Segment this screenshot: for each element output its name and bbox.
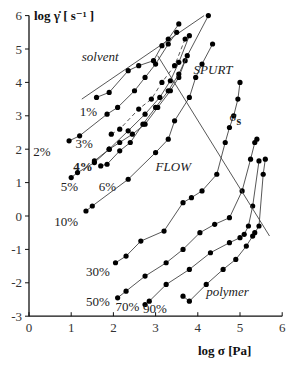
data-point: [94, 95, 99, 100]
data-point: [187, 299, 192, 304]
data-point: [199, 188, 204, 193]
data-point: [123, 253, 128, 258]
data-point: [176, 21, 181, 26]
data-point: [66, 138, 71, 143]
region-label: σs: [229, 109, 241, 128]
y-tick-label: 3: [16, 108, 23, 123]
data-point: [104, 112, 109, 117]
series-label: 3%: [75, 136, 93, 151]
y-tick-label: 4: [16, 75, 23, 90]
data-point: [233, 257, 238, 262]
x-tick-label: 6: [279, 320, 286, 335]
data-point: [210, 41, 215, 46]
series-label: 2%: [33, 144, 51, 159]
data-point: [227, 215, 232, 220]
data-point: [126, 128, 131, 133]
y-tick-label: 1: [16, 175, 23, 190]
series-label: 5%: [61, 179, 79, 194]
data-point: [104, 162, 109, 167]
x-tick-label: 2: [110, 320, 117, 335]
x-tick-label: 0: [26, 320, 33, 335]
data-point: [221, 267, 226, 272]
data-point: [128, 140, 133, 145]
data-point: [246, 223, 251, 228]
y-tick-label: 6: [16, 8, 23, 23]
y-tick-label: -1: [11, 242, 22, 257]
series-line: [183, 159, 265, 301]
region-label: polymer: [205, 284, 250, 299]
y-axis-title-text: log γ̇ [ s⁻¹ ]: [34, 8, 94, 23]
y-tick-label: 5: [16, 42, 23, 57]
data-point: [185, 53, 190, 58]
data-point: [180, 294, 185, 299]
series-line: [101, 16, 209, 166]
y-tick-label: -2: [11, 275, 22, 290]
data-point: [237, 235, 242, 240]
series-label: 30%: [86, 264, 110, 279]
x-tick-label: 5: [237, 320, 244, 335]
data-point: [153, 61, 158, 66]
data-point: [176, 71, 181, 76]
data-point: [126, 177, 131, 182]
series-label: 6%: [99, 179, 117, 194]
series--s-boundary: [158, 56, 270, 236]
series-label: 70%: [116, 299, 140, 314]
data-point: [172, 118, 177, 123]
data-point: [164, 260, 169, 265]
data-point: [136, 107, 141, 112]
series-label: 50%: [86, 294, 110, 309]
data-point: [138, 238, 143, 243]
data-point: [214, 172, 219, 177]
data-point: [180, 247, 185, 252]
data-point: [244, 243, 249, 248]
series-group: 1%2%3%4%5%6%10%30%50%70%90%: [33, 13, 269, 316]
data-point: [252, 230, 257, 235]
data-point: [159, 80, 164, 85]
data-point: [130, 132, 135, 137]
data-point: [109, 132, 114, 137]
x-axis-title: log σ [Pa]: [198, 343, 251, 358]
data-point: [208, 250, 213, 255]
data-point: [180, 200, 185, 205]
data-point: [187, 33, 192, 38]
series-label: 10%: [54, 214, 78, 229]
data-point: [212, 222, 217, 227]
region-label: solvent: [82, 49, 119, 64]
data-point: [113, 260, 118, 265]
data-point: [254, 137, 259, 142]
data-point: [117, 127, 122, 132]
data-point: [126, 68, 131, 73]
data-point: [227, 125, 232, 130]
data-point: [117, 140, 122, 145]
data-point: [187, 267, 192, 272]
data-point: [136, 63, 141, 68]
data-point: [149, 97, 154, 102]
data-point: [117, 148, 122, 153]
data-point: [256, 223, 261, 228]
data-point: [107, 90, 112, 95]
data-point: [166, 88, 171, 93]
data-point: [142, 274, 147, 279]
data-point: [140, 122, 145, 127]
data-point: [187, 95, 192, 100]
data-point: [256, 158, 261, 163]
region-label: SPURT: [194, 62, 234, 77]
series-line: [158, 56, 270, 236]
data-point: [142, 112, 147, 117]
data-point: [166, 41, 171, 46]
data-point: [237, 80, 242, 85]
y-tick-label: 2: [16, 142, 23, 157]
data-point: [263, 157, 268, 162]
data-point: [227, 240, 232, 245]
data-point: [123, 289, 128, 294]
data-point: [261, 172, 266, 177]
data-point: [164, 282, 169, 287]
data-point: [197, 230, 202, 235]
flow-curve-chart: -3-2-101234560123456 1%2%3%4%5%6%10%30%5…: [0, 0, 296, 370]
data-point: [206, 13, 211, 18]
data-point: [142, 75, 147, 80]
x-tick-label: 4: [195, 320, 202, 335]
data-point: [248, 157, 253, 162]
data-point: [107, 147, 112, 152]
data-point: [92, 160, 97, 165]
